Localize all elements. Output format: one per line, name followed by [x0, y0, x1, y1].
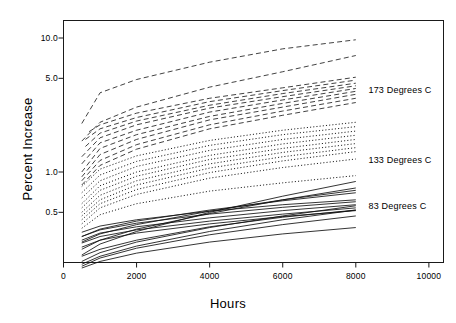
data-line [82, 131, 356, 198]
data-line [82, 86, 356, 157]
x-tick-label: 2000 [107, 272, 167, 281]
y-axis-title: Percent Increase [18, 69, 38, 229]
data-line [85, 83, 355, 146]
x-tick-label: 0 [34, 272, 94, 281]
x-axis-title: Hours [0, 296, 456, 311]
x-tick-label: 4000 [180, 272, 240, 281]
x-axis-tick-labels: 0200040006000800010000 [0, 272, 456, 286]
data-line [82, 103, 356, 185]
data-line [82, 144, 356, 213]
data-line [82, 127, 356, 193]
data-line [82, 40, 356, 124]
x-tick-label: 10000 [399, 272, 456, 281]
x-tick-label: 8000 [326, 272, 386, 281]
data-line [82, 190, 356, 242]
chart-figure: 0.51.05.010.0 0200040006000800010000 173… [0, 0, 456, 323]
series-label-1: 173 Degrees C [368, 85, 431, 95]
series-label-3: 83 Degrees C [368, 201, 426, 211]
x-tick-label: 6000 [253, 272, 313, 281]
y-tick-label: 10.0 [24, 34, 58, 43]
series-label-2: 133 Degrees C [368, 155, 431, 165]
data-line [82, 148, 356, 216]
series-group-1 [82, 40, 356, 185]
y-axis-title-text: Percent Increase [20, 97, 35, 200]
data-line [82, 88, 356, 163]
series-group-2 [82, 122, 356, 228]
